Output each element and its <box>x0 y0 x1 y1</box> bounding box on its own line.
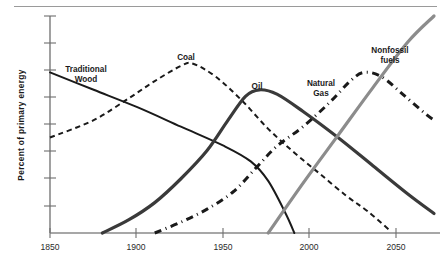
label-traditional-wood-line2: Wood <box>75 75 98 84</box>
x-tick-label-1950: 1950 <box>213 242 232 252</box>
energy-transitions-figure: 1850 1900 1950 2000 2050 Percent of prim… <box>0 0 445 261</box>
x-tick-label-1900: 1900 <box>126 242 145 252</box>
label-coal: Coal <box>177 53 195 62</box>
x-tick-label-2050: 2050 <box>386 242 405 252</box>
label-nonfossil-fuels-line2: fuels <box>380 56 400 65</box>
x-tick-label-1850: 1850 <box>40 242 59 252</box>
x-tick-label-2000: 2000 <box>299 242 318 252</box>
label-nonfossil-fuels-line1: Nonfossil <box>371 46 408 55</box>
label-traditional-wood-line1: Traditional <box>65 65 106 74</box>
energy-share-line-chart: 1850 1900 1950 2000 2050 Percent of prim… <box>0 0 445 261</box>
y-axis-title: Percent of primary energy <box>16 69 26 180</box>
label-natural-gas-line1: Natural <box>307 79 335 88</box>
label-natural-gas-line2: Gas <box>313 89 329 98</box>
label-oil: Oil <box>252 82 263 91</box>
